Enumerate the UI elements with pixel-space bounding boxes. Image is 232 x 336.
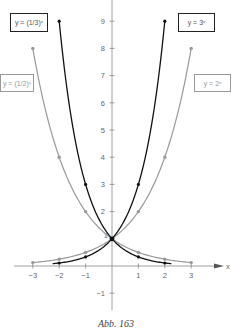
x-tick-label: 2	[163, 271, 167, 280]
intersection-point	[110, 236, 115, 241]
data-point	[58, 20, 61, 23]
data-point	[84, 210, 87, 213]
x-axis-label: x	[226, 262, 230, 271]
x-tick-label: −2	[55, 271, 64, 280]
label-two-power: y = 2ˣ	[194, 74, 231, 92]
label-one-half-power: y = (1/2)ˣ	[0, 74, 34, 92]
curve-y-3-x	[53, 21, 165, 264]
data-point	[163, 258, 166, 261]
data-point	[137, 251, 140, 254]
data-point	[31, 261, 34, 264]
y-tick-label: −1	[96, 289, 105, 298]
data-point	[58, 156, 61, 159]
x-axis-arrow-icon	[214, 264, 224, 269]
y-tick-label: 6	[101, 99, 105, 108]
exponential-functions-chart: x−3−2−1123−1234567891	[0, 0, 232, 336]
data-point	[163, 20, 166, 23]
data-point	[137, 183, 140, 186]
y-tick-label: 2	[101, 207, 105, 216]
data-point	[137, 255, 140, 258]
data-point	[31, 47, 34, 50]
y-tick-label: 3	[101, 180, 105, 189]
data-point	[58, 258, 61, 261]
data-point	[163, 261, 166, 264]
label-one-third-power: y = (1/3)ˣ	[10, 13, 48, 32]
x-tick-label: 1	[136, 271, 140, 280]
data-point	[163, 156, 166, 159]
y-tick-label: 9	[101, 17, 105, 26]
x-tick-label: −1	[81, 271, 90, 280]
data-point	[84, 251, 87, 254]
curve-y-1-3-x	[59, 21, 171, 264]
data-point	[190, 261, 193, 264]
data-point	[84, 183, 87, 186]
x-tick-label: −3	[29, 271, 38, 280]
data-point	[84, 255, 87, 258]
label-text: y = (1/2)ˣ	[3, 80, 31, 87]
y-tick-label: 5	[101, 126, 105, 135]
data-point	[137, 210, 140, 213]
data-point	[58, 261, 61, 264]
x-tick-label: 3	[189, 271, 193, 280]
label-text: y = 3ˣ	[188, 19, 206, 26]
label-text: y = 2ˣ	[204, 80, 222, 87]
data-point	[190, 47, 193, 50]
figure-caption: Abb. 163	[0, 318, 232, 329]
label-three-power: y = 3ˣ	[178, 13, 215, 32]
y-tick-label: 7	[101, 71, 105, 80]
label-text: y = (1/3)ˣ	[15, 19, 43, 26]
y-tick-label: 4	[101, 153, 105, 162]
y-tick-label: 8	[101, 44, 105, 53]
